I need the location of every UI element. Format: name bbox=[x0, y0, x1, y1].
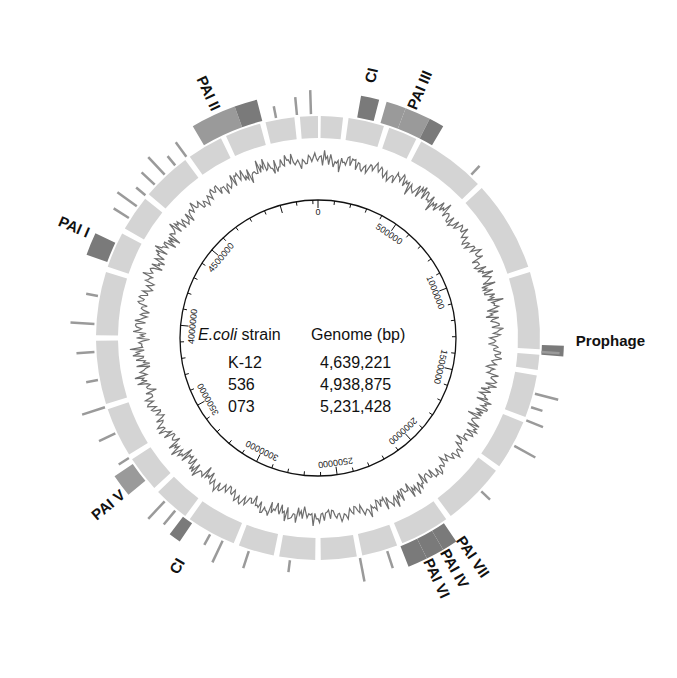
svg-text:PAI II: PAI II bbox=[193, 73, 224, 113]
genome-073: 5,231,428 bbox=[320, 398, 391, 415]
svg-text:PAI I: PAI I bbox=[56, 212, 92, 240]
svg-text:CI: CI bbox=[361, 66, 381, 84]
svg-text:Prophage: Prophage bbox=[576, 332, 645, 349]
svg-text:3500000: 3500000 bbox=[195, 382, 221, 417]
svg-text:3000000: 3000000 bbox=[244, 439, 280, 464]
genome-header: Genome (bp) bbox=[311, 326, 405, 343]
strain-k12: K-12 bbox=[228, 354, 262, 371]
genome-k12: 4,639,221 bbox=[320, 354, 391, 371]
genome-536: 4,938,875 bbox=[320, 376, 391, 393]
svg-text:PAI III: PAI III bbox=[404, 68, 436, 112]
svg-text:CI: CI bbox=[166, 555, 188, 577]
svg-text:1500000: 1500000 bbox=[432, 349, 450, 385]
svg-text:500000: 500000 bbox=[374, 221, 404, 246]
svg-text:2000000: 2000000 bbox=[387, 416, 420, 447]
svg-text:2500000: 2500000 bbox=[317, 455, 353, 470]
strain-header: E.coli strain bbox=[198, 326, 281, 343]
strain-536: 536 bbox=[228, 376, 255, 393]
genome-map: 0500000100000015000002000000250000030000… bbox=[0, 0, 677, 678]
svg-text:4500000: 4500000 bbox=[206, 241, 236, 274]
svg-text:PAI V: PAI V bbox=[88, 486, 128, 523]
strain-table: E.coli strain Genome (bp) K-12 4,639,221… bbox=[198, 326, 405, 415]
strain-073: 073 bbox=[228, 398, 255, 415]
svg-text:0: 0 bbox=[315, 207, 320, 217]
